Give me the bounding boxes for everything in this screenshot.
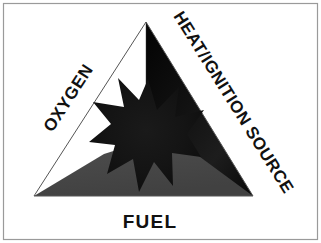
label-fuel: FUEL bbox=[123, 211, 177, 232]
fire-triangle-figure: OXYGEN HEAT/IGNITION SOURCE FUEL bbox=[0, 0, 321, 243]
fire-triangle-diagram: OXYGEN HEAT/IGNITION SOURCE FUEL bbox=[0, 0, 321, 243]
